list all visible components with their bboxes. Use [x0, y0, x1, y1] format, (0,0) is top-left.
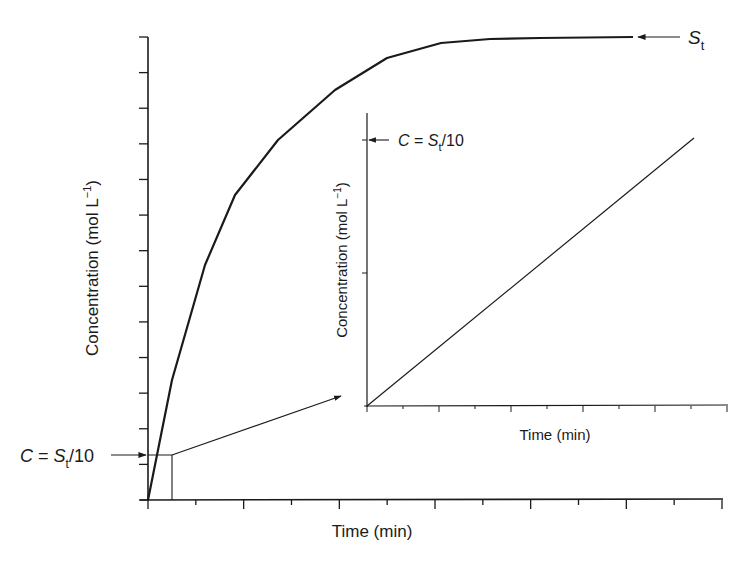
main-x-ticks — [148, 500, 722, 509]
zoom-arrow — [172, 396, 341, 455]
main-chart: St C = St/10 Time (min) Concentration (m… — [20, 27, 723, 541]
inset-x-axis — [364, 405, 728, 406]
inset-x-label: Time (min) — [519, 426, 590, 443]
main-x-label: Time (min) — [332, 522, 413, 541]
st-label: St — [688, 27, 705, 53]
inset-line — [367, 138, 694, 406]
main-x-axis — [140, 499, 723, 500]
inset-chart: C = St/10 Time (min) Concentration (mol … — [332, 113, 728, 443]
main-y-label: Concentration (mol L−1) — [81, 180, 102, 356]
inset-x-ticks — [367, 406, 727, 412]
inset-y-label: Concentration (mol L−1) — [332, 182, 350, 338]
inset-c-label: C = St/10 — [398, 132, 464, 153]
main-c-label: C = St/10 — [20, 446, 94, 471]
main-y-ticks — [139, 37, 148, 500]
figure: St C = St/10 Time (min) Concentration (m… — [0, 0, 743, 561]
